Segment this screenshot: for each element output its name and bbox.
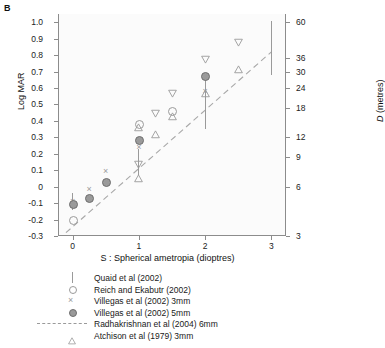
y-tick xyxy=(54,22,58,23)
y2-tick xyxy=(286,108,290,109)
legend-glyph xyxy=(37,323,87,324)
y-tick xyxy=(54,170,58,171)
error-bar xyxy=(271,21,272,75)
y2-tick-label: 3 xyxy=(296,232,326,240)
data-point-filled-circle xyxy=(102,178,111,187)
data-point-triangle-down xyxy=(134,155,143,173)
y2-tick xyxy=(286,72,290,73)
x-tick-label: 0 xyxy=(61,241,85,251)
y2-tick-label: 18 xyxy=(296,104,326,112)
legend-glyph xyxy=(72,272,73,283)
legend-label: Radhakrishnan et al (2004) 6mm xyxy=(94,319,218,329)
data-point-triangle-down xyxy=(234,33,243,51)
y2-tick xyxy=(286,187,290,188)
x-tick xyxy=(139,236,140,240)
y2-tick-label: 30 xyxy=(296,68,326,76)
x-tick xyxy=(205,236,206,240)
legend-item: ×Villegas et al (2002) 3mm xyxy=(0,295,335,307)
data-point-cross: × xyxy=(101,167,110,176)
data-point-triangle-up xyxy=(234,60,243,78)
y2-tick-label: 60 xyxy=(296,18,326,26)
y-tick xyxy=(54,154,58,155)
x-tick xyxy=(73,236,74,240)
x-tick-label: 3 xyxy=(259,241,283,251)
data-point-cross: × xyxy=(85,185,94,194)
data-point-filled-circle xyxy=(69,200,78,209)
y2-tick-label: 9 xyxy=(296,153,326,161)
legend-glyph: × xyxy=(68,295,73,306)
y-tick xyxy=(54,203,58,204)
legend-item: Quaid et al (2002) xyxy=(0,272,335,284)
y2-axis-title: D (metres) xyxy=(375,80,385,123)
y-tick-label: -0.2 xyxy=(3,216,43,224)
y-tick-label: 0.4 xyxy=(3,117,43,125)
y-tick xyxy=(54,55,58,56)
y2-tick xyxy=(286,22,290,23)
y2-tick-label: 6 xyxy=(296,183,326,191)
legend-glyph xyxy=(69,286,77,294)
data-point-triangle-down xyxy=(151,104,160,122)
y2-tick-label: 12 xyxy=(296,133,326,141)
legend-label: Villegas et al (2002) 5mm xyxy=(94,308,190,318)
y-tick-label: 0.9 xyxy=(3,35,43,43)
radhakrishnan-dashed-trendline xyxy=(66,52,271,233)
y-tick-label: 1.0 xyxy=(3,18,43,26)
x-axis-title: S : Spherical ametropia (dioptres) xyxy=(0,253,335,263)
legend-key-dashed-line xyxy=(55,318,89,330)
y-tick-label: -0.3 xyxy=(3,232,43,240)
legend-key-cross: × xyxy=(55,295,89,307)
data-point-triangle-up xyxy=(134,118,143,136)
y-tick xyxy=(54,121,58,122)
y2-tick-label: 36 xyxy=(296,54,326,62)
legend-key-triangle-up xyxy=(55,330,89,342)
y2-tick xyxy=(286,58,290,59)
y2-tick xyxy=(286,157,290,158)
data-point-triangle-up xyxy=(168,107,177,125)
legend-item: Atchison et al (1979) 3mm xyxy=(0,330,335,342)
data-point-triangle-down xyxy=(168,84,177,102)
y-tick-label: 0.8 xyxy=(3,51,43,59)
y-tick xyxy=(54,88,58,89)
data-point-triangle-up xyxy=(151,125,160,143)
y-tick xyxy=(54,39,58,40)
y-tick xyxy=(54,104,58,105)
y-tick-label: 0.3 xyxy=(3,133,43,141)
y-tick xyxy=(54,220,58,221)
legend-label: Villegas et al (2002) 3mm xyxy=(94,296,190,306)
x-tick-label: 1 xyxy=(127,241,151,251)
legend-label: Quaid et al (2002) xyxy=(94,273,162,283)
y2-tick-label: 24 xyxy=(296,84,326,92)
y-tick-label: 0.6 xyxy=(3,84,43,92)
data-point-triangle-down xyxy=(201,50,210,68)
y-tick-label: 0.5 xyxy=(3,100,43,108)
panel-label: B xyxy=(4,3,11,13)
legend: Quaid et al (2002)Reich and Ekabutr (200… xyxy=(0,272,335,341)
legend-key-open-circle xyxy=(55,284,89,296)
y-tick-label: 0.1 xyxy=(3,166,43,174)
y2-tick xyxy=(286,137,290,138)
y-tick-label: 0 xyxy=(3,183,43,191)
y-tick xyxy=(54,137,58,138)
y-tick-label: 0.2 xyxy=(3,150,43,158)
legend-item: Radhakrishnan et al (2004) 6mm xyxy=(0,318,335,330)
legend-glyph xyxy=(69,309,77,317)
data-point-filled-circle xyxy=(135,136,144,145)
y-tick xyxy=(54,187,58,188)
legend-label: Reich and Ekabutr (2002) xyxy=(94,285,191,295)
legend-label: Atchison et al (1979) 3mm xyxy=(94,331,193,341)
x-tick xyxy=(271,236,272,240)
legend-key-filled-circle xyxy=(55,307,89,319)
legend-item: Villegas et al (2002) 5mm xyxy=(0,307,335,319)
legend-glyph xyxy=(68,331,76,348)
plot-area: ××××× Log MAR D (metres) xyxy=(58,14,286,236)
y-tick xyxy=(54,236,58,237)
data-point-open-circle xyxy=(69,216,78,225)
y2-tick xyxy=(286,236,290,237)
y2-tick xyxy=(286,88,290,89)
y-tick-label: 0.7 xyxy=(3,68,43,76)
y-tick xyxy=(54,72,58,73)
legend-item: Reich and Ekabutr (2002) xyxy=(0,284,335,296)
x-tick-label: 2 xyxy=(193,241,217,251)
legend-key-errorbar xyxy=(55,272,89,284)
